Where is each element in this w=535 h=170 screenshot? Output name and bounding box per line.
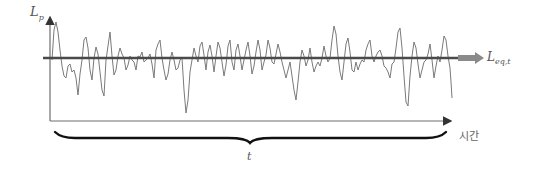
leq-label-sub: eq,t xyxy=(495,57,511,66)
diagram-canvas xyxy=(0,0,535,170)
x-axis-label: 시간 xyxy=(459,127,479,143)
leq-arrow-icon xyxy=(458,52,484,64)
brace-label: t xyxy=(247,150,251,163)
y-axis-label: Lp xyxy=(30,4,44,22)
y-axis-label-main: L xyxy=(30,4,39,19)
time-interval-brace xyxy=(55,132,446,143)
sound-level-waveform xyxy=(52,22,452,113)
leq-label-main: L xyxy=(487,50,495,64)
leq-label: Leq,t xyxy=(487,50,511,66)
y-axis-label-sub: p xyxy=(39,13,44,22)
